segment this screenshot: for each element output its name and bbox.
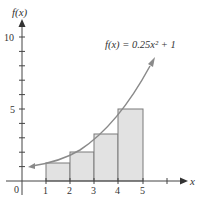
function-label: f(x) = 0.25x² + 1 bbox=[105, 39, 176, 51]
x-axis-arrow-icon bbox=[180, 178, 188, 185]
riemann-sum-chart: f(x) x 10 5 0 1 2 3 4 5 f(x) = 0.25x² + … bbox=[0, 0, 198, 201]
x-axis-label: x bbox=[189, 175, 195, 187]
rect-3 bbox=[94, 134, 118, 181]
x-tick-2: 2 bbox=[67, 185, 72, 196]
rect-4 bbox=[118, 109, 143, 181]
rect-2 bbox=[70, 152, 94, 181]
curve-arrow-start-icon bbox=[28, 163, 35, 169]
x-tick-5: 5 bbox=[140, 185, 145, 196]
y-axis-label: f(x) bbox=[12, 6, 28, 19]
rectangles bbox=[46, 109, 143, 181]
curve-arrow-end-icon bbox=[148, 57, 155, 67]
y-tick-5: 5 bbox=[10, 104, 15, 115]
x-tick-1: 1 bbox=[43, 185, 48, 196]
origin-label: 0 bbox=[14, 184, 19, 195]
x-tick-3: 3 bbox=[91, 185, 96, 196]
y-axis-arrow-icon bbox=[19, 19, 26, 27]
rect-1 bbox=[46, 163, 70, 181]
y-tick-10: 10 bbox=[4, 32, 14, 43]
x-tick-4: 4 bbox=[115, 185, 120, 196]
